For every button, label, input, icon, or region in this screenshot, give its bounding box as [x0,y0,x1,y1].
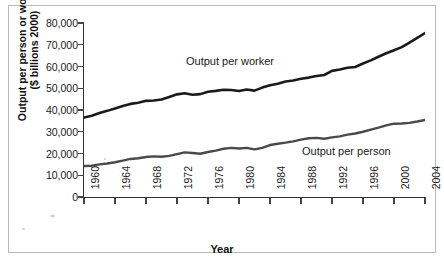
x-axis-tick-label: 1992 [337,166,349,206]
scan-speckle [22,228,25,230]
x-axis-tick-label: 1960 [89,166,101,206]
y-axis-tick-label: 80,000 [32,18,78,28]
x-axis-tick-mark [238,198,239,204]
y-axis-tick-labels: 80,00070,00060,00050,00040,00030,00020,0… [30,0,78,267]
x-axis-tick-mark [207,198,208,204]
y-axis-tick-label: 60,000 [32,62,78,72]
x-axis-tick-label: 1996 [368,166,380,206]
x-axis-tick-mark [300,198,301,204]
x-axis-tick-label: 1988 [306,166,318,206]
series-line-output-per-person [84,120,425,166]
x-axis-tick-mark [114,198,115,204]
x-axis-tick-label: 1984 [275,166,287,206]
x-axis-tick-mark [269,198,270,204]
x-axis-tick-label: 1968 [151,166,163,206]
x-axis-tick-label: 1964 [120,166,132,206]
series-label-output-per-worker: Output per worker [186,55,274,67]
series-label-output-per-person: Output per person [302,145,391,157]
x-axis-tick-mark [393,198,394,204]
x-axis-tick-label: 2004 [430,166,442,206]
x-axis-tick-label: 1980 [244,166,256,206]
y-axis-tick-label: 40,000 [32,105,78,115]
x-axis-tick-mark [83,198,84,204]
x-axis-tick-label: 2000 [399,166,411,206]
x-axis-tick-mark [331,198,332,204]
x-axis-title: Year [0,243,444,255]
x-axis-tick-mark [145,198,146,204]
x-axis-tick-label: 1976 [213,166,225,206]
y-axis-tick-label: 70,000 [32,40,78,50]
y-axis-title-line1: Output per person or worker [16,0,28,121]
y-axis-tick-label: 30,000 [32,127,78,137]
chart-figure: Output per person or worker ($ billions … [0,0,444,267]
x-axis-tick-mark [176,198,177,204]
y-axis-tick-label: 10,000 [32,170,78,180]
x-axis-tick-label: 1972 [182,166,194,206]
y-axis-tick-label: 50,000 [32,83,78,93]
x-axis-tick-mark [362,198,363,204]
y-axis-tick-label: 20,000 [32,149,78,159]
y-axis-tick-label: 0 [32,192,78,202]
series-line-output-per-worker [84,33,425,118]
x-axis-tick-mark [424,198,425,204]
